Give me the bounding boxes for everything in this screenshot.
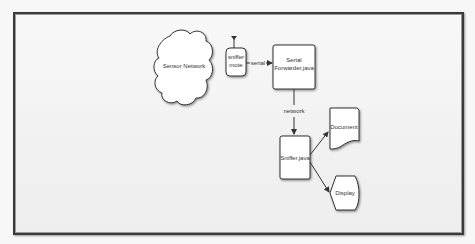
document-node: Document	[330, 108, 359, 149]
serial-forwarder-node: Serial Forwarder.java	[273, 45, 315, 89]
system-diagram: Sensor Network sniffer mote serial Seria…	[0, 0, 475, 244]
serial-forwarder-label-2: Forwarder.java	[274, 65, 314, 71]
sniffer-mote-label-2: mote	[229, 62, 243, 68]
display-node: Display	[330, 176, 359, 210]
antenna-tip-icon	[231, 36, 237, 40]
sniffer-mote-node: sniffer mote	[226, 36, 246, 76]
serial-edge-label: serial	[251, 60, 265, 66]
edge-to-document	[310, 132, 328, 155]
sniffer-mote-label-1: sniffer	[228, 54, 244, 60]
display-label: Display	[335, 190, 355, 196]
sensor-network-label: Sensor Network	[163, 63, 207, 69]
serial-forwarder-label-1: Serial	[286, 57, 301, 63]
network-edge: network	[283, 89, 305, 134]
document-label: Document	[330, 124, 358, 130]
sniffer-java-label: Sniffer.java	[280, 155, 310, 161]
edge-to-display	[310, 162, 329, 192]
network-edge-label: network	[283, 108, 305, 114]
serial-edge: serial	[246, 60, 272, 66]
sensor-network-cloud: Sensor Network	[154, 30, 213, 105]
sniffer-java-node: Sniffer.java	[280, 136, 310, 179]
